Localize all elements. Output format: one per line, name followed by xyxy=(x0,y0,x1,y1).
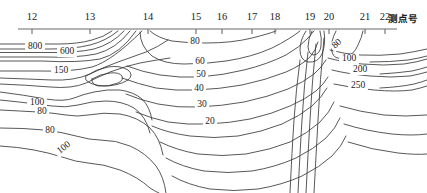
contour-label: 80 xyxy=(37,106,47,116)
axis-tick-label: 18 xyxy=(270,11,281,22)
contour-line xyxy=(0,146,159,193)
contour-line xyxy=(172,136,346,191)
contour-label: 150 xyxy=(54,65,69,75)
contour-label: 30 xyxy=(197,99,207,109)
axis-tick-label: 15 xyxy=(191,11,202,22)
contour-label: 800 xyxy=(28,41,43,51)
contour-line xyxy=(344,124,427,135)
contour-line xyxy=(298,52,308,193)
contour-label: 80 xyxy=(45,125,55,135)
axis-tick-label: 16 xyxy=(217,11,228,22)
contour-line xyxy=(348,142,427,154)
contour-line xyxy=(127,31,314,77)
contour-label: 200 xyxy=(353,64,368,74)
axis-tick-group xyxy=(32,29,385,34)
contour-line xyxy=(380,80,427,88)
contour-label: 100 xyxy=(342,53,357,63)
contour-label: 80 xyxy=(190,36,200,46)
axis-tick-label: 20 xyxy=(324,11,335,22)
contour-line xyxy=(340,106,427,116)
contour-line xyxy=(308,31,321,55)
contour-label: 600 xyxy=(60,46,75,56)
contour-plot-canvas: 8006001501008080100806050403020801002002… xyxy=(0,0,427,193)
axis-tick-label: 19 xyxy=(305,11,316,22)
contour-line xyxy=(0,58,170,88)
contour-line xyxy=(380,67,427,74)
axis-tick-label: 21 xyxy=(360,11,371,22)
axis-tick-label: 14 xyxy=(143,11,154,22)
contour-figure: 8006001501008080100806050403020801002002… xyxy=(0,0,427,193)
axis-tick-label: 17 xyxy=(247,11,258,22)
contour-label: 50 xyxy=(196,69,206,79)
contour-line xyxy=(0,31,112,44)
contour-label: 60 xyxy=(195,56,205,66)
contour-line xyxy=(334,84,427,91)
axis-tick-label: 13 xyxy=(85,11,96,22)
contour-line xyxy=(150,31,276,43)
contour-line xyxy=(136,77,328,124)
contour-label: 40 xyxy=(194,83,204,93)
contour-label: 250 xyxy=(351,80,366,90)
contour-line xyxy=(160,102,334,156)
station-axis: 1213141516171819202122 测点号 xyxy=(18,11,418,34)
contour-label: 20 xyxy=(205,116,215,126)
axis-tick-label-group: 1213141516171819202122 xyxy=(27,11,391,22)
contour-line xyxy=(306,44,316,193)
axis-tick-label: 12 xyxy=(27,11,38,22)
axis-title: 测点号 xyxy=(388,13,418,24)
contour-line xyxy=(152,88,327,138)
contour-line xyxy=(0,90,152,120)
contour-line xyxy=(290,60,300,193)
contour-line xyxy=(0,128,166,193)
contour-line xyxy=(0,100,150,133)
contour-line xyxy=(166,118,340,173)
